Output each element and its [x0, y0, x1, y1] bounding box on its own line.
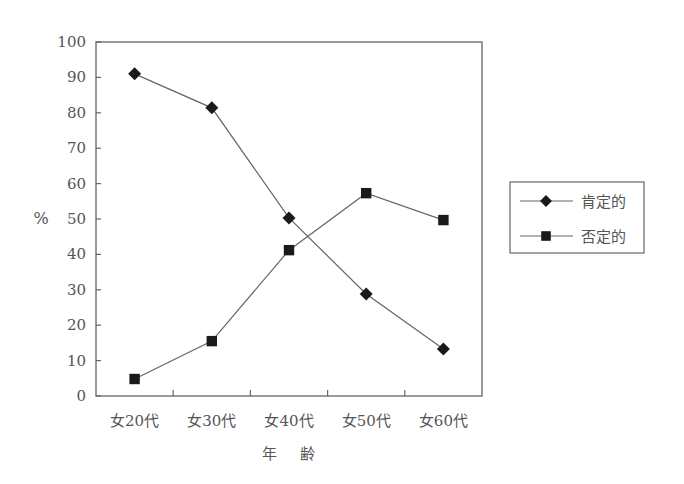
series-lines	[128, 67, 450, 384]
diamond-marker	[205, 101, 218, 114]
square-marker	[129, 374, 139, 384]
y-tick-label: 30	[67, 281, 86, 299]
y-tick-label: 40	[67, 245, 86, 263]
x-category-label: 女60代	[419, 412, 468, 430]
diamond-marker	[437, 342, 450, 355]
legend-label: 肯定的	[581, 193, 626, 211]
x-category-label: 女20代	[110, 412, 159, 430]
series-line	[135, 74, 444, 349]
x-category-label: 女40代	[264, 412, 313, 430]
x-category-label: 女50代	[342, 412, 391, 430]
legend: 肯定的否定的	[510, 182, 644, 253]
square-marker	[438, 215, 448, 225]
square-marker	[361, 188, 371, 198]
square-marker	[207, 336, 217, 346]
y-axis: 0102030405060708090100	[57, 33, 101, 405]
y-tick-label: 10	[67, 352, 86, 370]
y-tick-label: 80	[67, 104, 86, 122]
x-category-label: 女30代	[187, 412, 236, 430]
y-tick-label: 100	[57, 33, 86, 51]
y-tick-label: 0	[76, 387, 86, 405]
y-tick-label: 20	[67, 316, 86, 334]
x-axis-label: 年 齢	[262, 445, 319, 463]
y-tick-label: 90	[67, 68, 86, 86]
y-axis-label: %	[33, 209, 48, 228]
y-tick-label: 60	[67, 175, 86, 193]
diamond-marker	[128, 67, 141, 80]
y-tick-label: 50	[67, 210, 86, 228]
y-tick-label: 70	[67, 139, 86, 157]
legend-label: 否定的	[581, 228, 626, 246]
square-marker	[541, 231, 551, 241]
square-marker	[284, 245, 294, 255]
series-positive	[128, 67, 450, 355]
line-chart: 0102030405060708090100 女20代女30代女40代女50代女…	[0, 0, 684, 484]
